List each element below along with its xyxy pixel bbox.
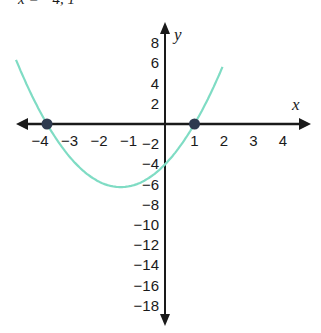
- y-tick-label: 4: [151, 75, 159, 92]
- y-tick-label: −12: [134, 236, 159, 253]
- x-intercept-point: [42, 119, 53, 130]
- x-axis-right-arrow-icon: [299, 118, 311, 130]
- y-tick-label: −16: [134, 277, 159, 294]
- y-axis-up-arrow-icon: [160, 22, 170, 34]
- y-axis: [160, 22, 170, 326]
- x-tick-label: 4: [279, 132, 287, 149]
- y-tick-label: −4: [142, 155, 159, 172]
- y-tick-label: 8: [151, 34, 159, 51]
- x-tick-label: 1: [190, 132, 198, 149]
- y-tick-label: −18: [134, 297, 159, 314]
- y-axis-down-arrow-icon: [160, 314, 170, 326]
- x-axis: [16, 118, 311, 130]
- y-tick-label: 2: [151, 95, 159, 112]
- x-tick-label: −2: [90, 132, 107, 149]
- y-tick-label: −10: [134, 216, 159, 233]
- parabola-graph: x = −4, 1 y x −4−3−2−11234 8642−2−4−6−8−…: [0, 0, 321, 333]
- x-tick-label: −4: [31, 132, 48, 149]
- x-tick-label: 2: [220, 132, 228, 149]
- x-intercept-point: [189, 119, 200, 130]
- x-tick-label: −3: [61, 132, 78, 149]
- cropped-header-text: x = −4, 1: [17, 0, 75, 7]
- y-axis-label: y: [172, 25, 182, 44]
- y-tick-label: 6: [151, 54, 159, 71]
- x-tick-label: −1: [120, 132, 137, 149]
- x-tick-labels: −4−3−2−11234: [31, 132, 287, 149]
- y-tick-label: −8: [142, 196, 159, 213]
- x-tick-label: 3: [249, 132, 257, 149]
- x-axis-left-arrow-icon: [16, 118, 28, 130]
- x-axis-label: x: [291, 95, 300, 114]
- y-tick-label: −14: [134, 256, 159, 273]
- y-tick-label: −2: [142, 135, 159, 152]
